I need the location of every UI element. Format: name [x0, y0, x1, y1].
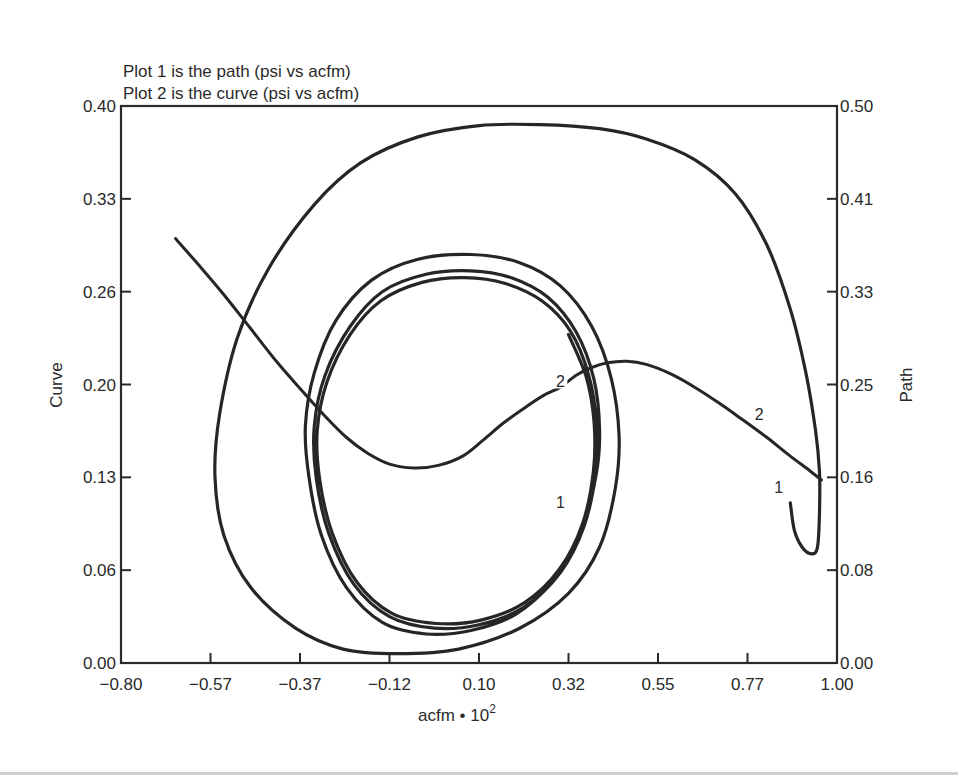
- x-tick-label: 0.10: [462, 675, 495, 694]
- left-y-axis-ticks: 0.400.330.260.200.130.060.00: [83, 97, 131, 673]
- x-tick-label: −0.37: [278, 675, 321, 694]
- curve-number-label: 2: [755, 406, 764, 423]
- chart-title-line-2: Plot 2 is the curve (psi vs acfm): [123, 84, 359, 103]
- x-tick-label: −0.12: [368, 675, 411, 694]
- page-bottom-rule: [0, 772, 958, 775]
- right-y-tick-label: 0.50: [840, 97, 873, 116]
- series-layer: [176, 124, 822, 654]
- x-axis-ticks: −0.80−0.57−0.37−0.120.100.320.550.771.00: [99, 653, 853, 694]
- curve-number-label: 2: [556, 373, 565, 390]
- chart: Plot 1 is the path (psi vs acfm) Plot 2 …: [0, 0, 958, 780]
- right-y-tick-label: 0.33: [840, 283, 873, 302]
- x-axis-label: acfm • 102: [418, 702, 496, 725]
- x-tick-label: 0.32: [552, 675, 585, 694]
- curve-number-label: 1: [556, 494, 565, 511]
- x-axis-label-text: acfm • 10: [418, 706, 489, 725]
- left-y-tick-label: 0.40: [83, 97, 116, 116]
- curve-number-label: 1: [774, 479, 783, 496]
- x-tick-label: 0.55: [641, 675, 674, 694]
- right-y-axis-label: Path: [897, 368, 916, 403]
- x-tick-label: −0.80: [99, 675, 142, 694]
- left-y-tick-label: 0.13: [83, 468, 116, 487]
- right-y-tick-label: 0.25: [840, 376, 873, 395]
- x-tick-label: 1.00: [820, 675, 853, 694]
- x-axis-label-exponent: 2: [489, 702, 496, 716]
- right-y-tick-label: 0.08: [840, 561, 873, 580]
- left-y-axis-label: Curve: [47, 362, 66, 407]
- series-1-line: [215, 124, 820, 654]
- left-y-tick-label: 0.20: [83, 376, 116, 395]
- right-y-tick-label: 0.16: [840, 468, 873, 487]
- left-y-tick-label: 0.06: [83, 561, 116, 580]
- x-tick-label: −0.57: [189, 675, 232, 694]
- left-y-tick-label: 0.26: [83, 283, 116, 302]
- right-y-axis-ticks: 0.500.410.330.250.160.080.00: [827, 97, 873, 673]
- left-y-tick-label: 0.00: [83, 654, 116, 673]
- right-y-tick-label: 0.41: [840, 190, 873, 209]
- chart-title-line-1: Plot 1 is the path (psi vs acfm): [123, 62, 351, 81]
- x-tick-label: 0.77: [731, 675, 764, 694]
- left-y-tick-label: 0.33: [83, 190, 116, 209]
- right-y-tick-label: 0.00: [840, 654, 873, 673]
